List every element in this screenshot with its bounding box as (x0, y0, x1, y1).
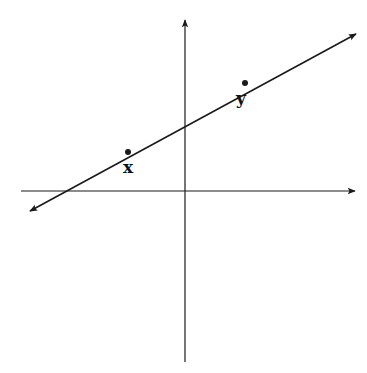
point-y-label: y (235, 88, 247, 108)
point-x-label: x (123, 157, 134, 177)
point-y (242, 80, 248, 86)
line-through-x-and-y (30, 34, 356, 211)
coordinate-diagram: x y (0, 0, 367, 373)
point-x (125, 149, 131, 155)
